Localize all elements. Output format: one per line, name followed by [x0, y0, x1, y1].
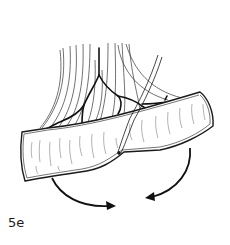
tissue-flap	[21, 92, 213, 181]
illustration-figure	[0, 0, 230, 245]
rotation-arrow-left	[52, 178, 116, 210]
rotation-arrow-right	[145, 148, 190, 201]
figure-label: 5e	[8, 215, 24, 230]
